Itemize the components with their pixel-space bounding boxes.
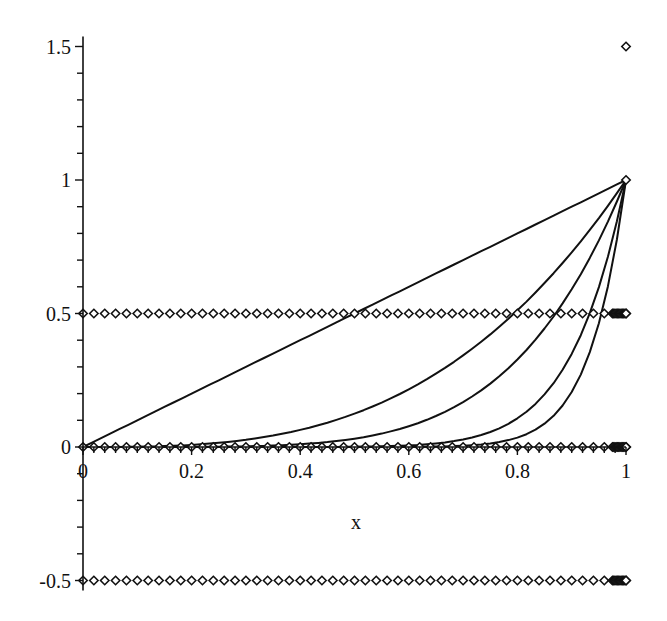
diamond-marker: [557, 576, 565, 584]
diamond-marker: [253, 309, 261, 317]
diamond-marker: [394, 309, 402, 317]
diamond-marker: [209, 309, 217, 317]
diamond-marker: [448, 309, 456, 317]
x-tick-label: 0: [78, 460, 88, 482]
diamond-marker: [274, 309, 282, 317]
diamond-marker: [426, 309, 434, 317]
diamond-marker: [263, 309, 271, 317]
diamond-marker: [459, 576, 467, 584]
diamond-marker: [546, 576, 554, 584]
diamond-marker: [459, 309, 467, 317]
diamond-marker: [220, 576, 228, 584]
diamond-marker: [166, 309, 174, 317]
diamond-marker: [242, 576, 250, 584]
diamond-marker: [101, 576, 109, 584]
diamond-marker: [209, 576, 217, 584]
diamond-marker: [589, 576, 597, 584]
x-tick-label: 0.6: [396, 460, 421, 482]
diamond-marker: [372, 576, 380, 584]
diamond-marker: [242, 309, 250, 317]
diamond-marker: [177, 576, 185, 584]
diamond-marker: [177, 309, 185, 317]
diamond-marker: [415, 576, 423, 584]
diamond-marker: [166, 576, 174, 584]
diamond-marker: [231, 309, 239, 317]
diamond-marker: [187, 309, 195, 317]
diamond-marker: [296, 309, 304, 317]
diamond-marker: [513, 309, 521, 317]
markers-layer: [79, 42, 631, 584]
diamond-marker: [155, 576, 163, 584]
diamond-marker: [329, 309, 337, 317]
diamond-marker: [253, 576, 261, 584]
y-tick-label: 1: [61, 169, 71, 191]
diamond-marker: [90, 309, 98, 317]
y-tick-label: 1.5: [46, 36, 71, 58]
diamond-marker: [524, 309, 532, 317]
diamond-marker: [350, 309, 358, 317]
x-tick-label: 0.8: [505, 460, 530, 482]
diamond-marker: [198, 309, 206, 317]
diamond-marker: [470, 309, 478, 317]
diamond-marker: [524, 576, 532, 584]
diamond-marker: [491, 309, 499, 317]
diamond-marker: [144, 309, 152, 317]
diamond-marker: [383, 309, 391, 317]
diamond-marker: [394, 576, 402, 584]
diamond-marker: [426, 576, 434, 584]
diamond-marker: [372, 309, 380, 317]
diamond-marker: [350, 576, 358, 584]
diamond-marker: [437, 576, 445, 584]
diamond-marker: [285, 309, 293, 317]
diamond-marker: [448, 576, 456, 584]
diamond-marker: [122, 576, 130, 584]
diamond-marker: [339, 576, 347, 584]
diamond-marker: [318, 309, 326, 317]
diamond-marker: [437, 309, 445, 317]
diamond-marker: [198, 576, 206, 584]
chart-canvas: -0.500.511.500.20.40.60.81 x: [0, 0, 667, 621]
diamond-marker: [405, 576, 413, 584]
diamond-marker: [622, 42, 630, 50]
diamond-marker: [220, 309, 228, 317]
diamond-marker: [470, 576, 478, 584]
diamond-marker: [415, 309, 423, 317]
diamond-marker: [133, 309, 141, 317]
diamond-marker: [263, 576, 271, 584]
diamond-marker: [144, 576, 152, 584]
diamond-marker: [578, 576, 586, 584]
diamond-marker: [274, 576, 282, 584]
diamond-marker: [155, 309, 163, 317]
diamond-marker: [122, 309, 130, 317]
diamond-marker: [361, 576, 369, 584]
diamond-marker: [502, 576, 510, 584]
diamond-marker: [101, 309, 109, 317]
diamond-marker: [535, 309, 543, 317]
diamond-marker: [383, 576, 391, 584]
y-tick-label: 0: [61, 436, 71, 458]
diamond-marker: [111, 309, 119, 317]
diamond-marker: [231, 576, 239, 584]
diamond-marker: [307, 309, 315, 317]
y-tick-label: -0.5: [39, 570, 71, 592]
diamond-marker: [481, 576, 489, 584]
diamond-marker: [307, 576, 315, 584]
y-tick-label: 0.5: [46, 303, 71, 325]
diamond-marker: [568, 576, 576, 584]
diamond-marker: [285, 576, 293, 584]
diamond-marker: [318, 576, 326, 584]
diamond-marker: [187, 576, 195, 584]
diamond-marker: [405, 309, 413, 317]
diamond-marker: [111, 576, 119, 584]
x-tick-label: 0.2: [179, 460, 204, 482]
diamond-marker: [491, 576, 499, 584]
diamond-marker: [133, 576, 141, 584]
diamond-marker: [90, 576, 98, 584]
diamond-marker: [568, 309, 576, 317]
diamond-marker: [481, 309, 489, 317]
diamond-marker: [513, 576, 521, 584]
x-tick-label: 0.4: [288, 460, 313, 482]
diamond-marker: [578, 309, 586, 317]
x-tick-label: 1: [621, 460, 631, 482]
x-axis-label: x: [351, 511, 361, 533]
